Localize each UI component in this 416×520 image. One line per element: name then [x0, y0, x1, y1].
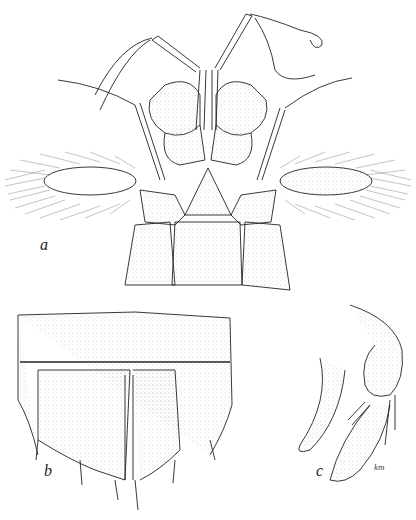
panel-label-b: b	[44, 462, 52, 480]
illustration-drawing	[0, 0, 416, 520]
panel-c-drawing	[299, 305, 403, 481]
panel-b-drawing	[18, 312, 232, 510]
panel-label-c: c	[316, 462, 323, 480]
panel-a-drawing	[5, 14, 411, 290]
panel-label-a: a	[40, 236, 48, 254]
scientific-illustration: a b c km	[0, 0, 416, 520]
artist-signature: km	[374, 462, 385, 472]
